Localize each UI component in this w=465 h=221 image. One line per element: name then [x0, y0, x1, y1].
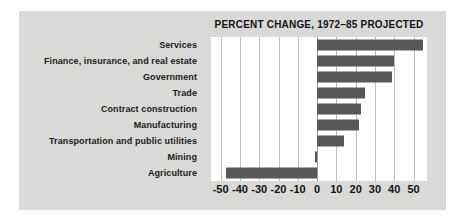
category-label: Services	[19, 37, 205, 53]
bar	[317, 120, 359, 131]
category-label: Mining	[19, 149, 205, 165]
bar	[317, 40, 423, 51]
bar	[226, 168, 317, 179]
bar	[317, 104, 361, 115]
x-tick-label: -50	[213, 183, 229, 195]
bar-series	[211, 37, 427, 181]
bar-row	[211, 37, 427, 53]
plot-area	[211, 37, 427, 181]
category-label: Agriculture	[19, 165, 205, 181]
bar	[315, 152, 317, 163]
chart-figure: PERCENT CHANGE, 1972–85 PROJECTED Servic…	[19, 11, 446, 210]
x-tick-label: -10	[290, 183, 306, 195]
bar-row	[211, 149, 427, 165]
bar-row	[211, 69, 427, 85]
value-axis: -50-40-30-20-1001020304050	[211, 183, 427, 199]
bar-row	[211, 117, 427, 133]
category-label: Trade	[19, 85, 205, 101]
x-tick-label: 30	[369, 183, 381, 195]
category-label: Transportation and public utilities	[19, 133, 205, 149]
bar	[317, 136, 344, 147]
category-label: Government	[19, 69, 205, 85]
category-label: Contract construction	[19, 101, 205, 117]
bar-row	[211, 133, 427, 149]
bar-row	[211, 85, 427, 101]
bar-row	[211, 53, 427, 69]
x-tick-label: -20	[271, 183, 287, 195]
x-tick-label: 50	[407, 183, 419, 195]
bar-row	[211, 165, 427, 181]
chart-title: PERCENT CHANGE, 1972–85 PROJECTED	[211, 19, 427, 30]
x-tick-label: 40	[388, 183, 400, 195]
category-axis: ServicesFinance, insurance, and real est…	[19, 37, 205, 181]
x-tick-label: 20	[350, 183, 362, 195]
x-tick-label: 10	[330, 183, 342, 195]
x-tick-label: -40	[232, 183, 248, 195]
category-label: Manufacturing	[19, 117, 205, 133]
x-tick-label: 0	[314, 183, 320, 195]
bar-row	[211, 101, 427, 117]
category-label: Finance, insurance, and real estate	[19, 53, 205, 69]
bar	[317, 56, 394, 67]
x-tick-label: -30	[251, 183, 267, 195]
bar	[317, 88, 365, 99]
bar	[317, 72, 392, 83]
